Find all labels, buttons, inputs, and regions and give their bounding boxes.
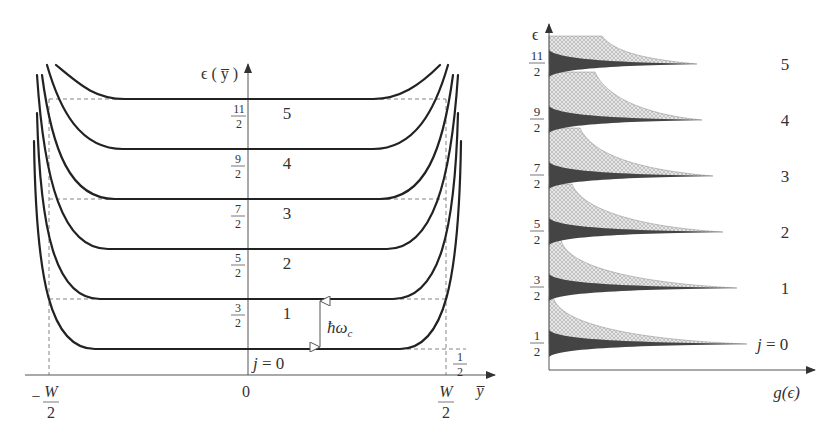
tick-den: 2: [235, 266, 241, 280]
density-of-states-plot: ϵ g(ϵ) 11 2 9 2 7 2 5 2 3 2 1: [529, 24, 815, 402]
tick-num: 11: [233, 102, 245, 116]
level-label-1: 1: [283, 304, 292, 323]
level-label-5: 5: [283, 104, 292, 123]
tail-j0: [549, 296, 747, 344]
level-label-4: 4: [781, 111, 790, 130]
y-tick-9-2: 9 2: [530, 104, 544, 135]
y-tick-3-2: 3 2: [231, 301, 245, 330]
tick-num: W: [439, 383, 454, 400]
hbar-omega-label: ħωc: [327, 318, 353, 339]
tick-num: 1: [534, 328, 541, 343]
tick-den: 2: [534, 120, 541, 135]
tick-den: 2: [457, 365, 463, 379]
tick-num: 9: [534, 104, 541, 119]
x-tick-w-half: W 2: [438, 383, 454, 421]
level-label-1: 1: [781, 279, 790, 298]
tick-num: W: [44, 383, 59, 400]
x-tick-origin: 0: [242, 383, 250, 400]
level-label-3: 3: [781, 167, 790, 186]
tick-num: 7: [235, 202, 241, 216]
dispersion-plot: ϵ ( y̅ ) 11 2 9 2 7 2 5 2 3 2 1: [25, 64, 495, 421]
y-tick-3-2: 3 2: [530, 272, 544, 303]
tick-num: 3: [235, 301, 241, 315]
y-tick-11-2: 11 2: [231, 102, 246, 131]
tick-den: 2: [534, 176, 541, 191]
hbar-omega: ħω: [327, 318, 348, 337]
edge-tails: [549, 36, 747, 344]
tick-den: 2: [47, 404, 55, 421]
tick-den: 2: [235, 167, 241, 181]
tick-den: 2: [236, 117, 242, 131]
y-axis-label: ϵ ( y̅ ): [201, 65, 238, 83]
tick-num: 5: [235, 251, 241, 265]
tick-den: 2: [235, 217, 241, 231]
tick-den: 2: [235, 316, 241, 330]
y-tick-1-2: 1 2: [530, 328, 544, 359]
tail-j3: [549, 128, 713, 176]
tick-num: 5: [534, 216, 541, 231]
omega-subscript: c: [348, 327, 353, 339]
tick-den: 2: [534, 344, 541, 359]
tick-den: 2: [534, 232, 541, 247]
level-label-2: 2: [781, 223, 790, 242]
y-tick-7-2: 7 2: [231, 202, 245, 231]
x-tick-minus-w-half: − W 2: [31, 383, 59, 421]
tail-j1: [549, 240, 737, 288]
tail-j2: [549, 184, 723, 232]
x-axis-label: y̅: [474, 382, 484, 400]
minus-sign: −: [31, 388, 40, 405]
y-axis-label: ϵ: [532, 26, 539, 43]
tick-num: 1: [457, 350, 463, 364]
level-label-4: 4: [283, 154, 292, 173]
figure: ϵ ( y̅ ) 11 2 9 2 7 2 5 2 3 2 1: [0, 0, 833, 441]
level-label-2: 2: [283, 254, 292, 273]
tail-j4: [549, 72, 702, 120]
tick-num: 11: [531, 48, 544, 63]
tick-num: 3: [534, 272, 541, 287]
tick-den: 2: [442, 404, 450, 421]
tick-num: 9: [235, 152, 241, 166]
tick-den: 2: [534, 64, 541, 79]
level-eq: = 0: [258, 354, 285, 373]
y-tick-5-2: 5 2: [231, 251, 245, 280]
level-label-0: j = 0: [251, 354, 284, 373]
y-tick-11-2: 11 2: [529, 48, 545, 79]
y-tick-7-2: 7 2: [530, 160, 544, 191]
tick-num: 7: [534, 160, 541, 175]
y-tick-5-2: 5 2: [530, 216, 544, 247]
level-eq: = 0: [762, 335, 789, 354]
x-axis-label: g(ϵ): [773, 383, 800, 402]
tick-den: 2: [534, 288, 541, 303]
level-label-5: 5: [781, 55, 790, 74]
level-label-3: 3: [283, 204, 292, 223]
y-tick-9-2: 9 2: [231, 152, 245, 181]
level-label-0: j = 0: [755, 335, 788, 354]
